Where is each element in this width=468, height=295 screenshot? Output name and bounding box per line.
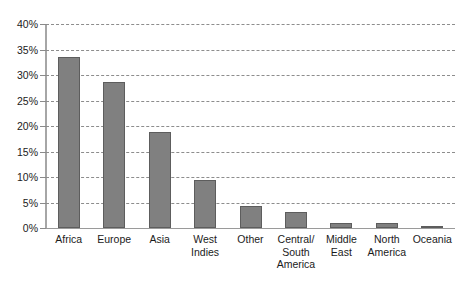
bar: [330, 223, 352, 228]
y-axis-tick-label: 10%: [2, 172, 38, 183]
y-axis-tick-label: 0%: [2, 223, 38, 234]
bar: [58, 57, 80, 228]
y-axis-tick: [40, 50, 46, 51]
y-axis-tick: [40, 177, 46, 178]
y-axis-tick-label: 20%: [2, 121, 38, 132]
x-axis-tick-label: West Indies: [182, 233, 227, 258]
x-axis-tick-label: North America: [364, 233, 409, 258]
x-axis-tick-label: Central/ South America: [273, 233, 318, 271]
plot-area: [46, 24, 455, 228]
bar: [194, 180, 216, 228]
y-axis-tick: [40, 24, 46, 25]
y-axis-tick-label: 40%: [2, 19, 38, 30]
y-axis-tick-label: 5%: [2, 197, 38, 208]
y-axis-tick: [40, 228, 46, 229]
x-axis-tick-label: Europe: [91, 233, 136, 246]
y-axis-tick-label: 25%: [2, 95, 38, 106]
gridline: [46, 75, 455, 76]
y-axis-tick-label: 35%: [2, 44, 38, 55]
y-axis-tick: [40, 203, 46, 204]
x-axis-tick-label: Africa: [46, 233, 91, 246]
gridline: [46, 228, 455, 229]
y-axis-tick-label: 30%: [2, 70, 38, 81]
x-axis-tick-label: Middle East: [319, 233, 364, 258]
x-axis-tick-label: Asia: [137, 233, 182, 246]
y-axis-tick: [40, 152, 46, 153]
bar: [149, 132, 171, 228]
y-axis-tick: [40, 75, 46, 76]
bar: [285, 212, 307, 228]
y-axis-tick-label: 15%: [2, 146, 38, 157]
y-axis-labels: 0%5%10%15%20%25%30%35%40%: [0, 0, 38, 295]
x-axis-tick-label: Other: [228, 233, 273, 246]
y-axis-tick: [40, 126, 46, 127]
bar-chart: 0%5%10%15%20%25%30%35%40% AfricaEuropeAs…: [0, 0, 468, 295]
y-axis-tick: [40, 101, 46, 102]
bar: [103, 82, 125, 228]
bar: [421, 226, 443, 228]
gridline: [46, 50, 455, 51]
bar: [240, 206, 262, 228]
x-axis-tick-label: Oceania: [410, 233, 455, 246]
gridline: [46, 24, 455, 25]
x-axis-labels: AfricaEuropeAsiaWest IndiesOtherCentral/…: [46, 233, 455, 293]
bar: [376, 223, 398, 228]
